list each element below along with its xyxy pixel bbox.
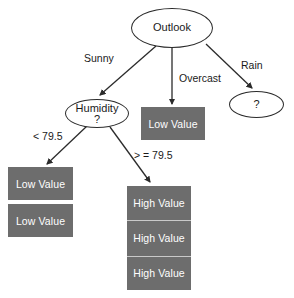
leaf-high-value-1[interactable]: High Value [127,186,191,221]
leaf-high-value-2-label: High Value [133,232,185,244]
node-unknown-rain[interactable]: ? [229,91,284,118]
node-humidity-sublabel: ? [94,114,100,124]
edge-label-sunny: Sunny [84,52,114,64]
leaf-low-value-2-label: Low Value [16,215,65,227]
edge-label-humidity-low: < 79.5 [33,130,63,142]
node-outlook[interactable]: Outlook [131,8,213,48]
edge-label-humidity-high: > = 79.5 [134,149,173,161]
leaf-overcast-low-value-label: Low Value [148,118,197,130]
node-outlook-label: Outlook [153,22,191,34]
node-humidity[interactable]: Humidity ? [65,99,129,128]
edge-label-rain: Rain [241,59,263,71]
leaf-low-value-2[interactable]: Low Value [8,204,73,237]
leaf-overcast-low-value[interactable]: Low Value [141,107,205,140]
leaf-high-value-3-label: High Value [133,267,185,279]
leaf-high-value-stack: High Value High Value High Value [127,186,191,290]
decision-tree-diagram: Outlook Humidity ? ? Low Value Low Value… [0,0,294,298]
leaf-high-value-2[interactable]: High Value [127,221,191,256]
edge-label-overcast: Overcast [179,72,221,84]
leaf-high-value-3[interactable]: High Value [127,257,191,290]
node-unknown-rain-label: ? [253,99,259,111]
leaf-low-value-1[interactable]: Low Value [8,167,73,200]
leaf-low-value-1-label: Low Value [16,178,65,190]
leaf-high-value-1-label: High Value [133,197,185,209]
